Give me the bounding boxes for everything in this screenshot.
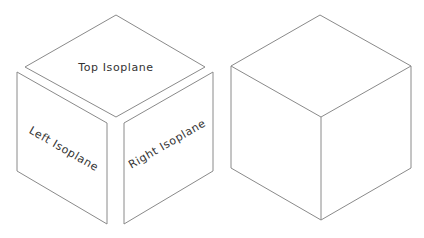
top-isoplane-face: Top Isoplane bbox=[25, 15, 205, 117]
exploded-cube: Top Isoplane Left Isoplane Right Isoplan… bbox=[17, 15, 213, 224]
cube-inner-edges bbox=[231, 66, 411, 117]
assembled-cube bbox=[231, 15, 411, 220]
isoplane-diagram: Top Isoplane Left Isoplane Right Isoplan… bbox=[0, 0, 424, 238]
top-isoplane-label: Top Isoplane bbox=[77, 61, 153, 74]
left-isoplane-label: Left Isoplane bbox=[27, 124, 101, 174]
right-isoplane-label: Right Isoplane bbox=[126, 117, 208, 172]
right-isoplane-face: Right Isoplane bbox=[124, 72, 213, 224]
left-isoplane-face: Left Isoplane bbox=[17, 72, 107, 224]
